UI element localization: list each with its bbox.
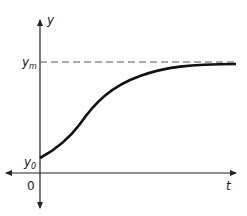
y-axis-label: y (46, 13, 55, 27)
growth-curve-diagram: y t 0 ym y0 (0, 0, 247, 216)
x-axis-label: t (226, 179, 232, 193)
growth-curve (40, 64, 236, 158)
ym-label: ym (21, 55, 37, 71)
origin-label: 0 (27, 179, 35, 193)
y0-label: y0 (23, 155, 36, 171)
